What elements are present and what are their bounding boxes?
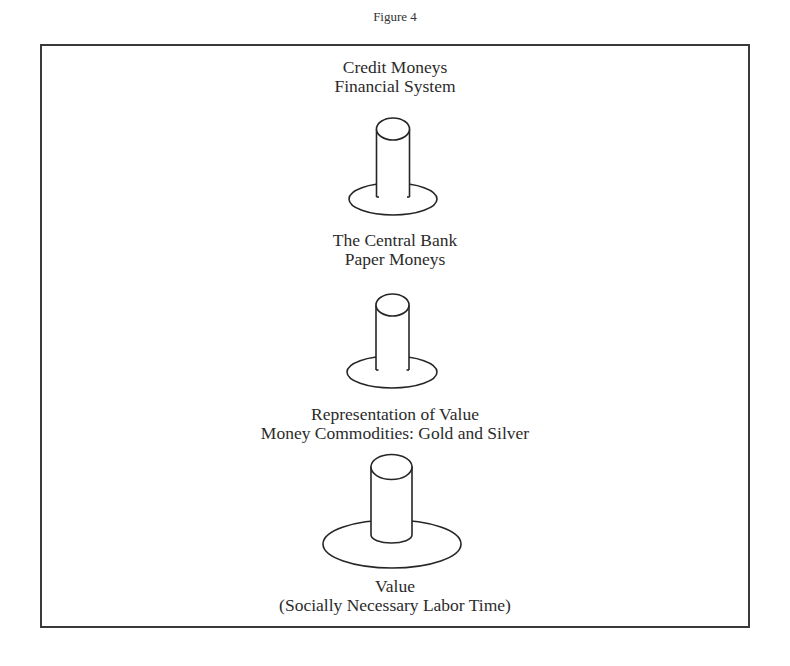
pedestal-small-icon: [349, 118, 437, 215]
pedestal-diagram: [0, 0, 790, 666]
pedestal-large-icon: [323, 455, 461, 569]
pedestal-small-icon: [347, 294, 437, 388]
